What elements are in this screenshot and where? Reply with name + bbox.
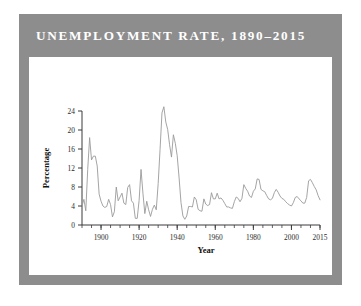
x-tick-label: 1920 (132, 233, 147, 242)
y-axis-tick-labels: 04812162024 (68, 107, 76, 230)
y-axis-ticks (78, 111, 82, 225)
x-tick-label: 1900 (94, 233, 109, 242)
unemployment-rate-line (82, 107, 320, 220)
figure-frame: UNEMPLOYMENT RATE, 1890–2015 04812162024… (19, 14, 342, 285)
y-tick-label: 24 (68, 107, 76, 116)
x-tick-label: 1960 (208, 233, 223, 242)
y-tick-label: 12 (68, 164, 76, 173)
y-axis-title: Percentage (41, 148, 51, 189)
line-chart: 04812162024 Percentage 19001920194019601… (29, 57, 332, 275)
x-tick-label: 2015 (313, 233, 328, 242)
y-axis: 04812162024 Percentage (41, 107, 82, 230)
x-tick-label: 2000 (284, 233, 299, 242)
plot-card: 04812162024 Percentage 19001920194019601… (29, 57, 332, 275)
x-tick-label: 1980 (246, 233, 261, 242)
y-tick-label: 16 (68, 145, 76, 154)
y-tick-label: 4 (71, 202, 75, 211)
x-axis: 1900192019401960198020002015 Year (82, 225, 328, 255)
title-band: UNEMPLOYMENT RATE, 1890–2015 (19, 14, 342, 57)
y-tick-label: 0 (71, 221, 75, 230)
chart-title: UNEMPLOYMENT RATE, 1890–2015 (36, 29, 306, 42)
figure-page: UNEMPLOYMENT RATE, 1890–2015 04812162024… (0, 0, 361, 306)
y-tick-label: 8 (71, 183, 75, 192)
x-axis-tick-labels: 1900192019401960198020002015 (94, 233, 328, 242)
x-axis-title: Year (197, 245, 214, 255)
x-axis-ticks (101, 225, 320, 230)
y-tick-label: 20 (68, 126, 76, 135)
x-tick-label: 1940 (170, 233, 185, 242)
